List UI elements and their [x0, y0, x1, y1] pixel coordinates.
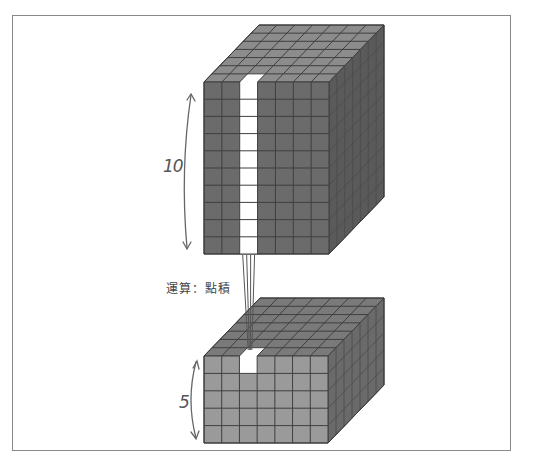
- dimension-arrows: [183, 94, 199, 439]
- tensor-diagram: [0, 0, 548, 463]
- operation-label: 運算：點積: [166, 279, 231, 296]
- bottom-depth-label: 5: [179, 392, 190, 412]
- top-depth-label: 10: [163, 156, 183, 176]
- bottom-tensor-block: [204, 298, 384, 443]
- top-tensor-block: [204, 25, 384, 254]
